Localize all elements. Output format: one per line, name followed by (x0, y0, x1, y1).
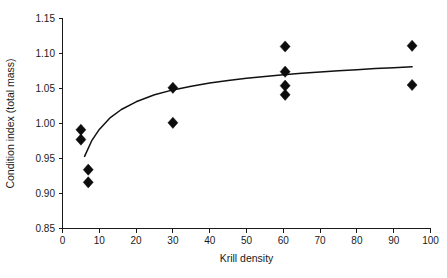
x-tick-label: 0 (60, 235, 66, 246)
data-point-marker (407, 79, 417, 90)
x-tick-label: 70 (315, 235, 327, 246)
x-tick-label: 20 (131, 235, 143, 246)
data-points-group (76, 40, 417, 188)
y-tick-label: 0.85 (36, 223, 56, 234)
x-tick-label: 50 (241, 235, 253, 246)
data-point-marker (76, 134, 86, 145)
x-tick-label: 80 (351, 235, 363, 246)
y-tick-label: 1.05 (36, 83, 56, 94)
x-axis-title: Krill density (220, 252, 274, 264)
data-point-marker (83, 177, 93, 188)
fit-curve (85, 67, 413, 157)
y-tick-label: 0.95 (36, 153, 56, 164)
data-point-marker (280, 41, 290, 52)
y-axis-title: Condition index (total mass) (4, 58, 16, 188)
y-tick-label: 1.10 (36, 48, 56, 59)
fit-curve-group (85, 67, 413, 157)
y-tick-label: 1.15 (36, 13, 56, 24)
data-point-marker (407, 40, 417, 51)
y-tick-label: 0.90 (36, 188, 56, 199)
data-point-marker (280, 89, 290, 100)
scatter-plot: 0.850.900.951.001.051.101.15 01020304050… (0, 0, 447, 278)
figure-container: 0.850.900.951.001.051.101.15 01020304050… (0, 0, 447, 278)
x-tick-label: 40 (204, 235, 216, 246)
x-tick-label: 30 (167, 235, 179, 246)
plot-axes (63, 19, 431, 229)
x-tick-label: 10 (94, 235, 106, 246)
x-tick-label: 100 (422, 235, 439, 246)
x-tick-label: 60 (278, 235, 290, 246)
x-tick-label: 90 (388, 235, 400, 246)
y-tick-label: 1.00 (36, 118, 56, 129)
y-axis-ticks: 0.850.900.951.001.051.101.15 (36, 13, 63, 234)
x-axis-ticks: 0102030405060708090100 (60, 229, 440, 246)
data-point-marker (83, 164, 93, 175)
data-point-marker (168, 82, 178, 93)
data-point-marker (168, 117, 178, 128)
